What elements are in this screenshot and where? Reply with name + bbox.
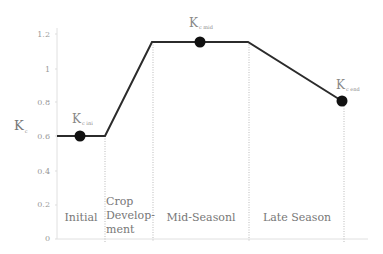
stage-crop-dev-3: ment [106, 223, 135, 236]
stage-late-season: Late Season [263, 211, 331, 224]
svg-text:0.4: 0.4 [37, 167, 50, 176]
kc-end-marker [337, 96, 348, 107]
stage-crop-dev-2: Develop- [106, 209, 155, 222]
y-ticks: 0 0.2 0.4 0.6 0.8 1 1.2 [37, 30, 57, 243]
kc-curve [57, 42, 342, 136]
kc-mid-marker [195, 37, 206, 48]
stage-initial: Initial [65, 211, 98, 224]
y-axis-label: Kc [14, 118, 28, 134]
kc-mid-label: Kc mid [189, 16, 214, 30]
svg-text:1: 1 [45, 65, 50, 74]
svg-text:1.2: 1.2 [37, 30, 50, 39]
kc-ini-label: Kc ini [72, 112, 93, 126]
svg-text:0: 0 [45, 234, 50, 243]
kc-chart: 0 0.2 0.4 0.6 0.8 1 1.2 Kc Kc ini Kc mid… [0, 0, 383, 254]
kc-end-label: Kc end [336, 78, 361, 92]
svg-text:0.8: 0.8 [37, 98, 50, 107]
stage-crop-dev-1: Crop [106, 195, 133, 208]
svg-text:0.6: 0.6 [37, 132, 50, 141]
stage-mid-season: Mid-Seasonl [166, 211, 235, 224]
svg-text:0.2: 0.2 [37, 200, 50, 209]
kc-ini-marker [75, 131, 86, 142]
